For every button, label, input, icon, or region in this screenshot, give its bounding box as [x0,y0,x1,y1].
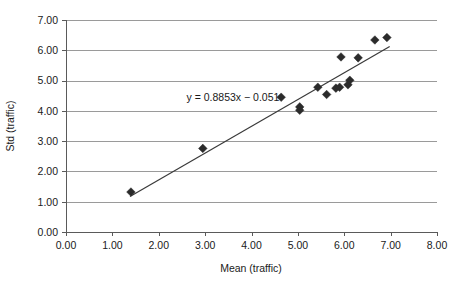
y-tick-label: 5.00 [38,74,59,86]
chart-canvas: 0.001.002.003.004.005.006.007.008.00 0.0… [0,0,461,281]
data-point-marker [127,188,136,197]
x-tick-labels: 0.001.002.003.004.005.006.007.008.00 [56,239,448,251]
trendline-equation-label: y = 0.8853x − 0.051 [187,91,280,103]
y-tick-label: 3.00 [38,135,59,147]
x-tick-label: 8.00 [427,239,448,251]
y-tick-label: 1.00 [38,196,59,208]
x-axis-title: Mean (traffic) [220,262,282,274]
y-tick-label: 0.00 [38,226,59,238]
y-tick-label: 6.00 [38,44,59,56]
data-point-marker [383,33,392,42]
y-tick-labels: 0.001.002.003.004.005.006.007.00 [38,14,59,238]
scatter-chart: 0.001.002.003.004.005.006.007.008.00 0.0… [0,0,461,281]
trendline-path [130,46,390,196]
y-tick-label: 2.00 [38,165,59,177]
data-point-marker [199,144,208,153]
x-tick-label: 4.00 [241,239,262,251]
data-point-marker [322,90,331,99]
y-tick-label: 7.00 [38,14,59,26]
x-tick-label: 0.00 [56,239,77,251]
y-tick-label: 4.00 [38,105,59,117]
x-tick-label: 7.00 [380,239,401,251]
data-point-marker [371,36,380,45]
axis-ticks [62,21,438,237]
x-tick-label: 1.00 [102,239,123,251]
x-tick-label: 3.00 [195,239,216,251]
trendline [130,46,390,196]
x-tick-label: 5.00 [288,239,309,251]
gridlines [66,21,437,203]
data-point-marker [354,54,363,63]
x-tick-label: 6.00 [334,239,355,251]
data-point-marker [337,53,346,62]
y-axis-title: Std (traffic) [4,100,16,151]
x-tick-label: 2.00 [149,239,170,251]
